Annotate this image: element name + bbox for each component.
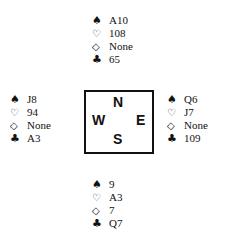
compass-east-label: E	[136, 113, 145, 127]
west-hearts-row: ♡ 94	[10, 106, 51, 119]
spade-icon: ♠	[92, 178, 105, 191]
south-hand: ♠ 9 ♡ A3 ◇ 7 ♣ Q7	[92, 178, 122, 230]
south-diamonds: 7	[105, 204, 115, 217]
south-clubs: Q7	[105, 217, 122, 230]
south-clubs-row: ♣ Q7	[92, 217, 122, 230]
west-clubs: A3	[23, 132, 40, 145]
west-hand: ♠ J8 ♡ 94 ◇ None ♣ A3	[10, 93, 51, 145]
north-hand: ♠ A10 ♡ 108 ◇ None ♣ 65	[92, 14, 133, 66]
diamond-icon: ◇	[167, 119, 180, 132]
north-hearts: 108	[105, 27, 126, 40]
west-diamonds-row: ◇ None	[10, 119, 51, 132]
west-diamonds: None	[23, 119, 51, 132]
compass-south-label: S	[113, 132, 122, 146]
west-hearts: 94	[23, 106, 38, 119]
compass-west-label: W	[92, 113, 105, 127]
spade-icon: ♠	[167, 93, 180, 106]
north-diamonds-row: ◇ None	[92, 40, 133, 53]
east-hand: ♠ Q6 ♡ J7 ◇ None ♣ 109	[167, 93, 208, 145]
east-clubs-row: ♣ 109	[167, 132, 208, 145]
north-hearts-row: ♡ 108	[92, 27, 133, 40]
diamond-icon: ◇	[10, 119, 23, 132]
heart-icon: ♡	[167, 106, 180, 119]
spade-icon: ♠	[10, 93, 23, 106]
heart-icon: ♡	[10, 106, 23, 119]
heart-icon: ♡	[92, 191, 105, 204]
south-hearts-row: ♡ A3	[92, 191, 122, 204]
east-diamonds-row: ◇ None	[167, 119, 208, 132]
club-icon: ♣	[10, 132, 23, 145]
diamond-icon: ◇	[92, 204, 105, 217]
north-diamonds: None	[105, 40, 133, 53]
north-clubs: 65	[105, 53, 120, 66]
north-clubs-row: ♣ 65	[92, 53, 133, 66]
heart-icon: ♡	[92, 27, 105, 40]
club-icon: ♣	[167, 132, 180, 145]
west-spades: J8	[23, 93, 37, 106]
club-icon: ♣	[92, 217, 105, 230]
east-hearts-row: ♡ J7	[167, 106, 208, 119]
west-spades-row: ♠ J8	[10, 93, 51, 106]
north-spades: A10	[105, 14, 128, 27]
compass-box: N W E S	[84, 90, 154, 154]
east-spades-row: ♠ Q6	[167, 93, 208, 106]
diamond-icon: ◇	[92, 40, 105, 53]
south-spades: 9	[105, 178, 115, 191]
compass-north-label: N	[113, 95, 123, 109]
north-spades-row: ♠ A10	[92, 14, 133, 27]
south-diamonds-row: ◇ 7	[92, 204, 122, 217]
east-diamonds: None	[180, 119, 208, 132]
club-icon: ♣	[92, 53, 105, 66]
south-spades-row: ♠ 9	[92, 178, 122, 191]
east-clubs: 109	[180, 132, 201, 145]
south-hearts: A3	[105, 191, 122, 204]
spade-icon: ♠	[92, 14, 105, 27]
east-spades: Q6	[180, 93, 197, 106]
west-clubs-row: ♣ A3	[10, 132, 51, 145]
east-hearts: J7	[180, 106, 194, 119]
